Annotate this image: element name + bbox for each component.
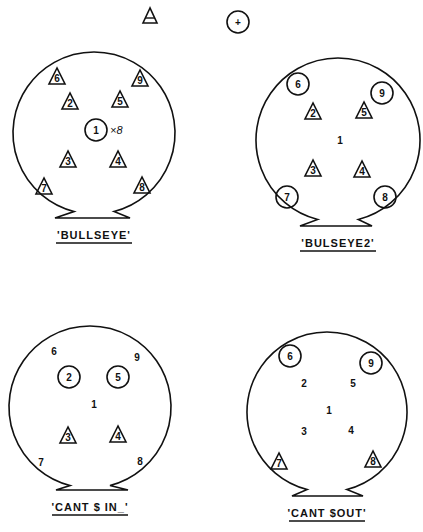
position-number: 9	[368, 358, 374, 369]
position-number: 6	[287, 351, 293, 362]
position-4: 4	[110, 426, 126, 442]
circle-plus-icon: +	[227, 11, 249, 33]
triangle-icon	[143, 8, 157, 23]
position-4: 4	[354, 161, 370, 177]
position-4: 4	[348, 425, 354, 436]
position-number: 8	[370, 456, 376, 467]
position-number: 6	[295, 79, 301, 90]
position-number: 8	[139, 182, 145, 193]
position-number: 1	[337, 135, 343, 146]
position-number: 7	[284, 192, 290, 203]
layout-diagram: 123456789'CANT $OUT'	[247, 332, 407, 521]
position-2: 2	[305, 103, 321, 119]
multiplier-annotation: ×8	[110, 124, 123, 136]
position-number: 9	[137, 75, 143, 86]
position-number: 6	[51, 346, 57, 357]
layout-diagram: 123456789×8'BULLSEYE'	[13, 52, 175, 243]
position-7: 7	[38, 457, 44, 468]
position-3: 3	[301, 426, 307, 437]
position-1: 1	[326, 405, 332, 416]
position-number: 1	[93, 125, 99, 136]
pattern-title: 'CANT $OUT'	[287, 507, 366, 519]
position-3: 3	[60, 151, 76, 167]
position-number: 5	[117, 96, 123, 107]
position-6: 6	[51, 346, 57, 357]
position-number: 4	[115, 156, 121, 167]
position-number: 8	[382, 192, 388, 203]
position-9: 9	[132, 70, 148, 86]
diagram-canvas: + 123456789×8'BULLSEYE'123456789'BULSEYE…	[0, 0, 423, 532]
position-9: 9	[360, 352, 382, 374]
position-6: 6	[49, 68, 65, 84]
position-1: 1	[91, 399, 97, 410]
position-2: 2	[62, 93, 78, 109]
legend: +	[143, 8, 249, 33]
position-number: 2	[310, 108, 316, 119]
position-8: 8	[137, 456, 143, 467]
position-1: 1	[337, 135, 343, 146]
position-number: 4	[359, 166, 365, 177]
position-6: 6	[287, 73, 309, 95]
position-8: 8	[134, 177, 150, 193]
position-number: 9	[134, 352, 140, 363]
position-number: 1	[91, 399, 97, 410]
position-7: 7	[271, 453, 287, 469]
position-8: 8	[365, 451, 381, 467]
position-9: 9	[134, 352, 140, 363]
pattern-title: 'BULLSEYE'	[57, 229, 131, 241]
position-number: 1	[326, 405, 332, 416]
position-9: 9	[371, 82, 393, 104]
position-5: 5	[112, 91, 128, 107]
position-number: 2	[67, 98, 73, 109]
position-number: 8	[137, 456, 143, 467]
pattern-title: 'CANT $ IN_'	[51, 501, 128, 513]
position-1: 1	[85, 119, 107, 141]
position-number: 9	[379, 88, 385, 99]
position-number: 5	[361, 107, 367, 118]
svg-text:+: +	[235, 17, 241, 28]
position-number: 2	[66, 372, 72, 383]
position-number: 2	[301, 378, 307, 389]
position-3: 3	[60, 427, 76, 443]
position-number: 3	[65, 432, 71, 443]
position-8: 8	[374, 186, 396, 208]
position-5: 5	[107, 366, 129, 388]
layout-diagram: 123456789'BULSEYE2'	[256, 58, 420, 251]
position-3: 3	[305, 160, 321, 176]
pattern-title: 'BULSEYE2'	[301, 237, 374, 249]
position-number: 5	[350, 378, 356, 389]
position-2: 2	[58, 366, 80, 388]
layout-diagram: 123456789'CANT $ IN_'	[9, 326, 171, 515]
position-number: 4	[115, 431, 121, 442]
position-5: 5	[350, 378, 356, 389]
position-number: 7	[41, 183, 47, 194]
position-number: 4	[348, 425, 354, 436]
pattern-outline	[9, 326, 171, 490]
position-number: 7	[276, 458, 282, 469]
position-number: 3	[310, 165, 316, 176]
position-6: 6	[279, 345, 301, 367]
position-2: 2	[301, 378, 307, 389]
position-number: 3	[65, 156, 71, 167]
position-number: 3	[301, 426, 307, 437]
position-number: 7	[38, 457, 44, 468]
position-number: 6	[54, 73, 60, 84]
position-4: 4	[110, 151, 126, 167]
position-number: 5	[115, 372, 121, 383]
position-5: 5	[356, 102, 372, 118]
